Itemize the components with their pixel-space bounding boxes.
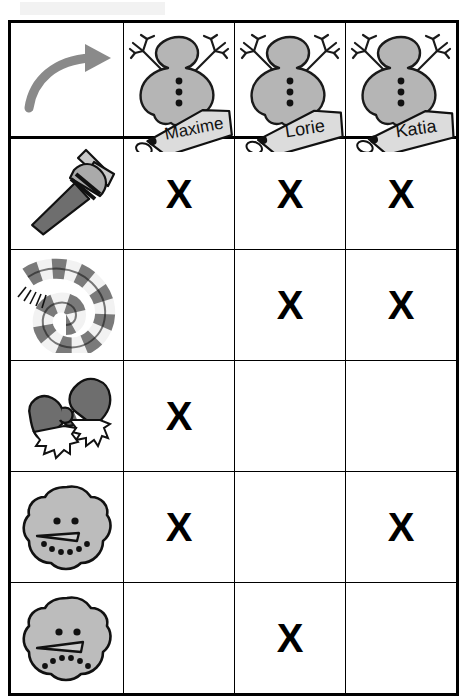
snowman-icon	[346, 27, 456, 132]
cell-mittens-katia[interactable]	[346, 361, 458, 472]
attribute-grid-table: Maxime	[8, 20, 459, 696]
checkered-scarf-icon	[11, 257, 123, 353]
mark-x: X	[166, 507, 193, 547]
cell-broom-katia[interactable]: X	[346, 138, 458, 250]
row-header-broom	[10, 138, 124, 250]
cell-scarf-lorie[interactable]: X	[235, 250, 346, 361]
cell-scarf-maxime[interactable]	[124, 250, 235, 361]
table-row: X X X	[10, 138, 458, 250]
mark-x: X	[388, 507, 415, 547]
column-header-lorie[interactable]: Lorie	[235, 22, 346, 138]
broom-icon	[11, 144, 123, 244]
cell-happy-face-lorie[interactable]	[235, 472, 346, 583]
cell-broom-maxime[interactable]: X	[124, 138, 235, 250]
table-row: X X	[10, 472, 458, 583]
cell-mittens-lorie[interactable]	[235, 361, 346, 472]
mark-x: X	[166, 396, 193, 436]
snowman-icon	[235, 27, 345, 132]
cell-scarf-katia[interactable]: X	[346, 250, 458, 361]
mittens-icon	[11, 368, 123, 464]
snowman-head-smiling-icon	[11, 481, 123, 573]
snowman-head-frowning-icon	[11, 592, 123, 684]
cell-mittens-maxime[interactable]: X	[124, 361, 235, 472]
curved-arrow-right-icon	[11, 40, 123, 120]
row-header-frowning-face	[10, 583, 124, 695]
row-header-happy-face	[10, 472, 124, 583]
snowman-icon	[124, 27, 234, 132]
column-header-maxime[interactable]: Maxime	[124, 22, 235, 138]
faded-header-bar	[20, 2, 165, 15]
mark-x: X	[277, 285, 304, 325]
table-header-row: Maxime	[10, 22, 458, 138]
row-header-scarf	[10, 250, 124, 361]
worksheet-sheet: Maxime	[8, 20, 456, 690]
mark-x: X	[388, 174, 415, 214]
table-row: X	[10, 583, 458, 695]
mark-x: X	[277, 618, 304, 658]
cell-frowning-face-maxime[interactable]	[124, 583, 235, 695]
cell-happy-face-maxime[interactable]: X	[124, 472, 235, 583]
mark-x: X	[388, 285, 415, 325]
cell-broom-lorie[interactable]: X	[235, 138, 346, 250]
column-header-katia[interactable]: Katia	[346, 22, 458, 138]
table-row: X X	[10, 250, 458, 361]
mark-x: X	[277, 174, 304, 214]
table-row: X	[10, 361, 458, 472]
cell-frowning-face-katia[interactable]	[346, 583, 458, 695]
cell-happy-face-katia[interactable]: X	[346, 472, 458, 583]
corner-cell	[10, 22, 124, 138]
row-header-mittens	[10, 361, 124, 472]
mark-x: X	[166, 174, 193, 214]
cell-frowning-face-lorie[interactable]: X	[235, 583, 346, 695]
